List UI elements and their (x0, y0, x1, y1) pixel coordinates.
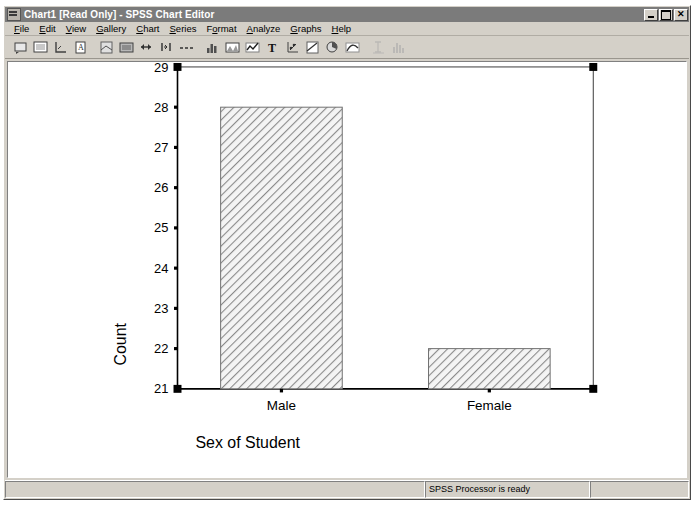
menu-bar: FileEditViewGalleryChartSeriesFormatAnal… (5, 22, 689, 36)
y-tick (174, 226, 178, 229)
y-tick (174, 307, 178, 310)
x-tick-label: Male (267, 398, 296, 413)
menu-help[interactable]: Help (327, 22, 357, 35)
menu-format[interactable]: Format (201, 22, 241, 35)
line-chart-icon[interactable] (243, 39, 262, 57)
status-message: SPSS Processor is ready (425, 481, 590, 498)
svg-text:T: T (268, 41, 276, 55)
y-tick (174, 267, 178, 270)
toolbar: AT (5, 37, 689, 59)
pie-chart-icon[interactable] (323, 39, 342, 57)
status-pane-right (590, 481, 689, 498)
title-bar: Chart1 [Read Only] - SPSS Chart Editor ✕ (5, 7, 689, 22)
svg-text:A: A (78, 43, 84, 52)
window-controls: ✕ (644, 9, 688, 21)
menu-edit[interactable]: Edit (34, 22, 60, 35)
menu-chart[interactable]: Chart (131, 22, 164, 35)
bar[interactable] (221, 107, 343, 389)
restore-button[interactable] (659, 9, 673, 21)
bar-chart-icon[interactable] (203, 39, 222, 57)
y-tick (174, 186, 178, 189)
error-bar-icon (369, 39, 388, 57)
chart-window-icon (7, 8, 21, 21)
close-button[interactable]: ✕ (674, 9, 688, 21)
axis-icon[interactable] (51, 39, 70, 57)
selection-handle[interactable] (174, 63, 182, 71)
y-tick-label: 26 (154, 180, 168, 195)
y-tick-label: 29 (154, 62, 168, 74)
x-tick (280, 389, 283, 393)
swap-axes-icon[interactable] (137, 39, 156, 57)
window-title: Chart1 [Read Only] - SPSS Chart Editor (24, 9, 644, 20)
y-tick-label: 22 (154, 341, 168, 356)
spin-mode-icon[interactable] (97, 39, 116, 57)
spss-chart-editor-screen: Chart1 [Read Only] - SPSS Chart Editor ✕… (0, 0, 698, 518)
status-bar: SPSS Processor is ready (5, 480, 689, 498)
menu-series[interactable]: Series (165, 22, 202, 35)
menu-gallery[interactable]: Gallery (91, 22, 131, 35)
y-tick (174, 106, 178, 109)
x-axis-title[interactable]: Sex of Student (195, 434, 300, 451)
x-tick (488, 389, 491, 393)
curve-fit-icon[interactable] (343, 39, 362, 57)
histogram-icon (389, 39, 408, 57)
y-tick-label: 21 (154, 381, 168, 396)
application-window: Chart1 [Read Only] - SPSS Chart Editor ✕… (3, 5, 691, 500)
x-tick-label: Female (467, 398, 512, 413)
selection-handle[interactable] (174, 385, 182, 393)
status-pane-empty (5, 481, 425, 498)
menu-view[interactable]: View (61, 22, 91, 35)
y-tick-label: 28 (154, 100, 168, 115)
y-tick-label: 27 (154, 140, 168, 155)
selection-handle[interactable] (589, 385, 597, 393)
scatter-icon[interactable] (283, 39, 302, 57)
menu-file[interactable]: File (9, 22, 34, 35)
y-tick (174, 146, 178, 149)
minimize-button[interactable] (644, 9, 658, 21)
fill-pattern-icon[interactable] (31, 39, 50, 57)
text-style-icon[interactable]: A (71, 39, 90, 57)
reference-line-icon[interactable] (303, 39, 322, 57)
chart-options-icon[interactable] (11, 39, 30, 57)
break-line-icon[interactable] (177, 39, 196, 57)
y-tick (174, 347, 178, 350)
chart-client-area[interactable]: 212223242526272829MaleFemaleSex of Stude… (7, 61, 687, 478)
y-tick-label: 23 (154, 301, 168, 316)
transpose-icon[interactable] (157, 39, 176, 57)
point-id-icon[interactable] (117, 39, 136, 57)
menu-graphs[interactable]: Graphs (285, 22, 326, 35)
bar-chart[interactable]: 212223242526272829MaleFemaleSex of Stude… (8, 62, 686, 477)
selection-handle[interactable] (589, 63, 597, 71)
y-tick-label: 24 (154, 261, 168, 276)
bar[interactable] (429, 349, 551, 389)
y-tick-label: 25 (154, 220, 168, 235)
text-tool-icon[interactable]: T (263, 39, 282, 57)
menu-analyze[interactable]: Analyze (242, 22, 286, 35)
y-axis-title[interactable]: Count (112, 323, 129, 366)
area-chart-icon[interactable] (223, 39, 242, 57)
